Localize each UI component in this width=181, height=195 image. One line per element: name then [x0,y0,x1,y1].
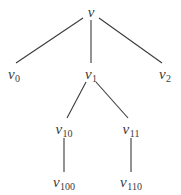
node-label-base: v [159,66,166,82]
node-label-subscript: 1 [92,73,97,84]
node-label-subscript: 110 [127,181,142,192]
node-v10: v10 [55,122,72,137]
node-label-subscript: 2 [166,73,171,84]
node-v0: v0 [8,67,20,82]
node-v11: v11 [123,122,140,137]
node-label-subscript: 11 [130,128,140,139]
node-label-subscript: 10 [63,128,73,139]
node-v110: v110 [120,175,142,190]
node-label-base: v [55,121,62,137]
node-v2: v2 [159,67,171,82]
edge-v1-v11 [96,82,128,118]
edge-v-v0 [16,18,83,63]
node-label-base: v [85,66,92,82]
node-label-base: v [53,174,60,190]
edge-v1-v10 [67,82,86,118]
node-label-base: v [8,66,15,82]
edge-v-v2 [99,18,162,63]
node-label-subscript: 0 [15,73,20,84]
node-label-base: v [123,121,130,137]
node-v1: v1 [85,67,97,82]
node-label-base: v [88,4,95,20]
node-v: v [88,5,95,20]
tree-edges [0,0,181,195]
node-label-base: v [120,174,127,190]
node-label-subscript: 100 [60,181,75,192]
node-v100: v100 [53,175,75,190]
